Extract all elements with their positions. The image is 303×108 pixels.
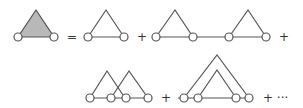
plus-sign-2: + — [279, 30, 289, 44]
term1-single-triangle — [84, 10, 128, 41]
plus-ellipsis: + ··· — [263, 91, 288, 105]
plus-sign-3: + — [161, 91, 171, 105]
term3-crossed-triangles — [86, 71, 152, 102]
lhs-right-node — [50, 33, 58, 41]
lhs-left-node — [14, 33, 22, 41]
lhs-shaded-triangle — [14, 10, 58, 41]
diagram-canvas: = + + + + ··· — [0, 0, 303, 108]
plus-sign-1: + — [137, 30, 147, 44]
equals-sign: = — [67, 30, 77, 44]
term4-nested-triangles — [178, 55, 253, 102]
term2-series-triangles — [152, 10, 270, 41]
